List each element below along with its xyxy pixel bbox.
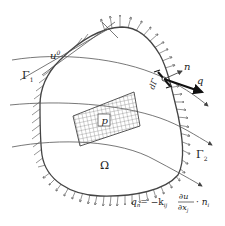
domain-diagram: p u0 Γ1 Γ2 Ω n q dΓ qn= −kij ∂u ∂xj bbox=[0, 0, 225, 226]
label-omega: Ω bbox=[100, 159, 109, 172]
label-u0: u0 bbox=[50, 49, 60, 61]
diagram-canvas: p u0 Γ1 Γ2 Ω n q dΓ qn= −kij ∂u ∂xj bbox=[0, 0, 225, 226]
svg-text:∂u: ∂u bbox=[179, 192, 188, 201]
label-gamma2: Γ2 bbox=[196, 148, 208, 162]
label-n: n bbox=[184, 61, 190, 72]
svg-text:∂xj: ∂xj bbox=[178, 203, 189, 214]
flux-formula: qn= −kij ∂u ∂xj · ni bbox=[131, 192, 210, 214]
svg-text:· ni: · ni bbox=[196, 197, 210, 208]
svg-text:qn= −kij: qn= −kij bbox=[131, 197, 167, 209]
label-gamma1: Γ1 bbox=[22, 69, 33, 83]
label-p: p bbox=[102, 115, 109, 126]
label-q: q bbox=[197, 75, 203, 86]
